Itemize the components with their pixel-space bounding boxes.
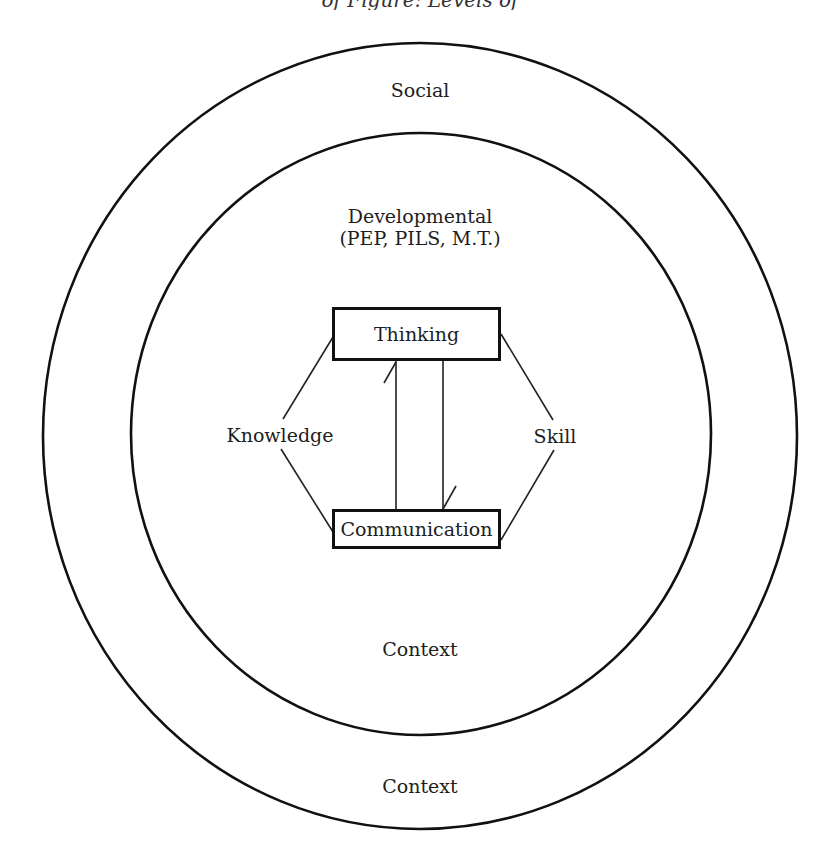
outer-social-circle xyxy=(43,43,797,829)
edge-knowledge-communication xyxy=(281,449,333,532)
label-inner-context: Context xyxy=(370,638,470,661)
node-communication-label: Communication xyxy=(341,518,493,540)
diagram-canvas xyxy=(0,0,839,868)
node-thinking: Thinking xyxy=(332,307,501,361)
label-developmental-subtitle: (PEP, PILS, M.T.) xyxy=(320,227,520,250)
label-developmental: Developmental xyxy=(320,205,520,228)
arrowhead-down-icon xyxy=(443,486,456,509)
label-knowledge: Knowledge xyxy=(220,424,340,447)
edge-skill-communication xyxy=(501,450,554,540)
edge-thinking-knowledge xyxy=(283,337,333,419)
node-communication: Communication xyxy=(332,509,501,549)
label-skill: Skill xyxy=(525,425,585,448)
node-thinking-label: Thinking xyxy=(374,323,459,345)
label-social: Social xyxy=(370,79,470,102)
label-outer-context: Context xyxy=(370,775,470,798)
arrowhead-up-icon xyxy=(384,362,396,383)
edge-thinking-skill xyxy=(501,334,553,420)
